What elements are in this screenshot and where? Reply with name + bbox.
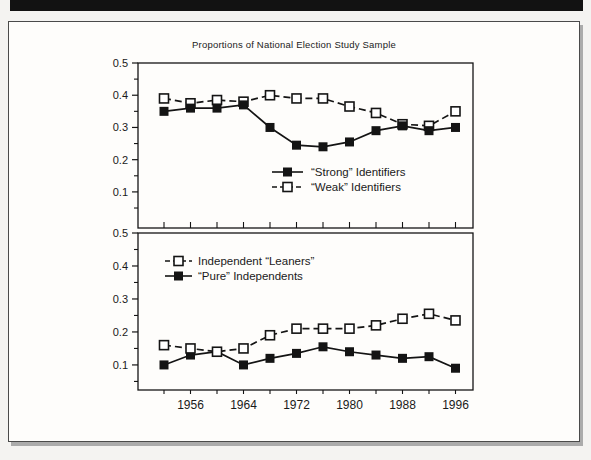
x-tick-label: 1988	[389, 398, 416, 412]
y-tick-label: 0.2	[113, 154, 128, 166]
legend: “Strong” Identifiers“Weak” Identifiers	[272, 166, 406, 193]
data-point-marker	[266, 354, 275, 363]
charts-canvas: 0.10.20.30.40.5“Strong” Identifiers“Weak…	[9, 22, 578, 440]
data-point-marker	[266, 331, 275, 340]
data-point-marker	[319, 94, 328, 103]
data-point-marker	[372, 126, 381, 135]
x-tick-label: 1956	[177, 398, 204, 412]
data-point-marker	[451, 107, 460, 116]
data-point-marker	[213, 96, 222, 105]
data-point-marker	[292, 141, 301, 150]
legend-label: Independent “Leaners”	[198, 255, 315, 267]
series-line	[164, 347, 456, 368]
legend-key-marker	[283, 183, 292, 192]
series-0	[160, 100, 461, 151]
data-point-marker	[186, 344, 195, 353]
figure-page: Proportions of National Election Study S…	[8, 21, 580, 442]
y-tick-label: 0.4	[113, 260, 128, 272]
data-point-marker	[160, 341, 169, 350]
data-point-marker	[160, 107, 169, 116]
series-0	[160, 309, 461, 356]
x-tick-label: 1964	[230, 398, 257, 412]
y-tick-label: 0.5	[113, 227, 128, 239]
series-1	[160, 91, 461, 131]
series-1	[160, 342, 461, 372]
data-point-marker	[292, 324, 301, 333]
legend-key-marker	[174, 257, 183, 266]
y-tick-label: 0.1	[113, 359, 128, 371]
bottom-chart-panel: 0.10.20.30.40.5195619641972198019881996I…	[113, 227, 473, 412]
legend-label: “Strong” Identifiers	[311, 166, 406, 178]
data-point-marker	[451, 364, 460, 373]
data-point-marker	[398, 354, 407, 363]
data-point-marker	[345, 102, 354, 111]
series-line	[164, 105, 456, 147]
data-point-marker	[345, 324, 354, 333]
y-tick-label: 0.1	[113, 186, 128, 198]
data-point-marker	[239, 100, 248, 109]
legend-label: “Weak” Identifiers	[311, 181, 401, 193]
series-line	[164, 95, 456, 126]
data-point-marker	[425, 352, 434, 361]
data-point-marker	[398, 314, 407, 323]
data-point-marker	[213, 104, 222, 113]
data-point-marker	[213, 347, 222, 356]
data-point-marker	[425, 126, 434, 135]
legend-key-marker	[283, 168, 292, 177]
data-point-marker	[239, 344, 248, 353]
top-banner-bar	[10, 0, 583, 11]
data-point-marker	[186, 104, 195, 113]
legend: Independent “Leaners”“Pure” Independents	[165, 255, 315, 282]
data-point-marker	[372, 351, 381, 360]
top-chart-panel: 0.10.20.30.40.5“Strong” Identifiers“Weak…	[113, 57, 473, 228]
data-point-marker	[319, 342, 328, 351]
data-point-marker	[345, 347, 354, 356]
data-point-marker	[372, 108, 381, 117]
legend-key-marker	[174, 272, 183, 281]
data-point-marker	[292, 94, 301, 103]
data-point-marker	[398, 121, 407, 130]
data-point-marker	[451, 123, 460, 132]
y-tick-label: 0.4	[113, 89, 128, 101]
y-tick-label: 0.3	[113, 121, 128, 133]
y-tick-label: 0.5	[113, 57, 128, 69]
data-point-marker	[292, 349, 301, 358]
data-point-marker	[160, 360, 169, 369]
data-point-marker	[319, 142, 328, 151]
data-point-marker	[160, 94, 169, 103]
x-tick-label: 1996	[442, 398, 469, 412]
x-tick-label: 1980	[336, 398, 363, 412]
data-point-marker	[372, 321, 381, 330]
series-line	[164, 314, 456, 352]
data-point-marker	[239, 360, 248, 369]
data-point-marker	[266, 91, 275, 100]
y-tick-label: 0.3	[113, 293, 128, 305]
legend-label: “Pure” Independents	[198, 270, 303, 282]
data-point-marker	[266, 123, 275, 132]
data-point-marker	[451, 316, 460, 325]
data-point-marker	[319, 324, 328, 333]
x-tick-label: 1972	[283, 398, 310, 412]
y-tick-label: 0.2	[113, 326, 128, 338]
data-point-marker	[425, 309, 434, 318]
data-point-marker	[345, 137, 354, 146]
